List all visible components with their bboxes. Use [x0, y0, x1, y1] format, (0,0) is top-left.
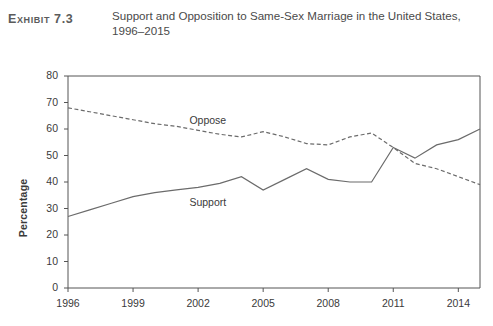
chart-tick-marks	[64, 76, 458, 292]
exhibit-number: Exhibit 7.3	[8, 12, 73, 26]
chart-series-lines	[68, 108, 480, 217]
series-line-oppose	[68, 108, 480, 185]
y-tick-label: 30	[36, 202, 58, 214]
series-line-support	[68, 129, 480, 216]
x-tick-label: 1996	[48, 297, 88, 309]
y-tick-label: 70	[36, 96, 58, 108]
line-chart: Percentage 01020304050607080 19961999200…	[0, 62, 493, 326]
chart-axes	[68, 76, 480, 288]
x-tick-label: 2002	[178, 297, 218, 309]
y-tick-label: 60	[36, 122, 58, 134]
y-tick-label: 10	[36, 255, 58, 267]
series-label-support: Support	[189, 196, 226, 208]
y-tick-label: 80	[36, 69, 58, 81]
x-tick-label: 2005	[243, 297, 283, 309]
y-tick-label: 20	[36, 228, 58, 240]
y-tick-label: 0	[36, 281, 58, 293]
x-tick-label: 2014	[438, 297, 478, 309]
exhibit-header: Exhibit 7.3 Support and Opposition to Sa…	[0, 0, 493, 62]
x-tick-label: 2008	[308, 297, 348, 309]
series-label-oppose: Oppose	[189, 114, 226, 126]
y-tick-label: 50	[36, 149, 58, 161]
chart-plot-svg	[0, 62, 493, 326]
y-tick-label: 40	[36, 175, 58, 187]
x-tick-label: 2011	[373, 297, 413, 309]
x-tick-label: 1999	[113, 297, 153, 309]
page-title: Support and Opposition to Same-Sex Marri…	[112, 8, 484, 38]
